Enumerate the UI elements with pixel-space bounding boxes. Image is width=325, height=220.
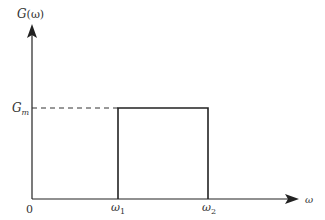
x-axis — [32, 194, 299, 204]
pulse-curve — [118, 108, 208, 199]
gm-label: Gm — [12, 101, 30, 117]
omega2-label: ω2 — [202, 201, 216, 216]
omega1-label: ω1 — [111, 201, 125, 216]
y-axis-label: G(ω) — [17, 7, 44, 21]
x-axis-label: ω — [305, 194, 313, 205]
chart-canvas: G(ω) Gm 0 ω1 ω2 ω — [0, 0, 325, 220]
origin-label: 0 — [26, 203, 33, 216]
